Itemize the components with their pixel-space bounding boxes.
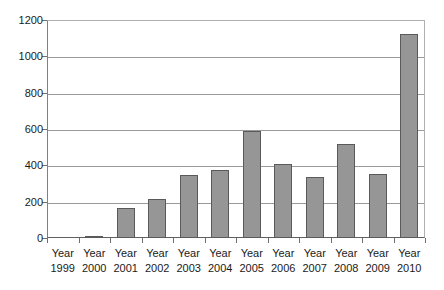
x-axis-label-line1: Year [110, 246, 142, 261]
bar[interactable] [369, 174, 387, 238]
bar[interactable] [117, 208, 135, 238]
bar-slot [394, 20, 426, 238]
y-axis-tick-label: 400 [2, 160, 43, 171]
x-axis-labels: Year1999Year2000Year2001Year2002Year2003… [47, 246, 425, 286]
x-axis-label-line1: Year [299, 246, 331, 261]
x-axis-tick-mark [142, 238, 143, 243]
x-axis-tick-mark [331, 238, 332, 243]
x-axis-tick-mark [173, 238, 174, 243]
bar-slot [142, 20, 174, 238]
x-axis-tick-mark [299, 238, 300, 243]
x-axis-tick-label: Year2006 [268, 246, 300, 276]
x-axis-tick-label: Year2001 [110, 246, 142, 276]
x-axis-label-line1: Year [79, 246, 111, 261]
bar[interactable] [306, 177, 324, 238]
bar-chart: 020040060080010001200 Year1999Year2000Ye… [0, 0, 444, 290]
bar-slot [110, 20, 142, 238]
x-axis-label-line2: 2009 [362, 261, 394, 276]
bar-slot [331, 20, 363, 238]
x-axis-tick-label: Year2008 [331, 246, 363, 276]
x-axis-label-line2: 1999 [47, 261, 79, 276]
bars-layer [47, 20, 425, 238]
x-axis-tick-mark [79, 238, 80, 243]
y-axis-tick-label: 1000 [2, 51, 43, 62]
bar[interactable] [180, 175, 198, 238]
bar-slot [205, 20, 237, 238]
x-axis-tick-mark [236, 238, 237, 243]
x-axis-tick-label: Year2002 [142, 246, 174, 276]
x-axis-tick-mark [47, 238, 48, 243]
bar-slot [47, 20, 79, 238]
bar-slot [79, 20, 111, 238]
bar-slot [268, 20, 300, 238]
x-axis-label-line1: Year [205, 246, 237, 261]
bar-slot [173, 20, 205, 238]
x-axis-label-line2: 2001 [110, 261, 142, 276]
x-axis-tick-label: Year1999 [47, 246, 79, 276]
bar[interactable] [400, 34, 418, 238]
x-axis-label-line2: 2010 [394, 261, 426, 276]
x-axis-tick-label: Year2004 [205, 246, 237, 276]
x-axis-tick-mark [394, 238, 395, 243]
x-axis-tick-label: Year2009 [362, 246, 394, 276]
x-axis-label-line2: 2004 [205, 261, 237, 276]
x-axis-ticks [47, 238, 425, 243]
y-axis-tick-label: 1200 [2, 15, 43, 26]
x-axis-tick-label: Year2010 [394, 246, 426, 276]
bar[interactable] [243, 131, 261, 238]
y-axis-tick-label: 0 [2, 233, 43, 244]
bar[interactable] [211, 170, 229, 238]
bar[interactable] [274, 164, 292, 238]
x-axis-tick-mark [268, 238, 269, 243]
x-axis-label-line1: Year [173, 246, 205, 261]
x-axis-label-line2: 2008 [331, 261, 363, 276]
x-axis-label-line1: Year [394, 246, 426, 261]
x-axis-tick-mark [425, 238, 426, 243]
y-axis-tick-label: 800 [2, 87, 43, 98]
x-axis-label-line1: Year [142, 246, 174, 261]
x-axis-tick-label: Year2007 [299, 246, 331, 276]
x-axis-tick-mark [110, 238, 111, 243]
bar-slot [236, 20, 268, 238]
y-axis-tick-label: 200 [2, 196, 43, 207]
x-axis-label-line2: 2006 [268, 261, 300, 276]
x-axis-label-line2: 2002 [142, 261, 174, 276]
y-axis-tick-label: 600 [2, 124, 43, 135]
x-axis-tick-label: Year2000 [79, 246, 111, 276]
x-axis-label-line2: 2007 [299, 261, 331, 276]
bar-slot [362, 20, 394, 238]
x-axis-tick-mark [362, 238, 363, 243]
bar-slot [299, 20, 331, 238]
y-axis: 020040060080010001200 [0, 0, 43, 290]
bar[interactable] [337, 144, 355, 238]
x-axis-label-line1: Year [331, 246, 363, 261]
x-axis-tick-mark [205, 238, 206, 243]
x-axis-label-line2: 2000 [79, 261, 111, 276]
x-axis-label-line2: 2003 [173, 261, 205, 276]
x-axis-tick-label: Year2003 [173, 246, 205, 276]
x-axis-label-line1: Year [47, 246, 79, 261]
x-axis-label-line1: Year [236, 246, 268, 261]
x-axis-label-line2: 2005 [236, 261, 268, 276]
x-axis-label-line1: Year [268, 246, 300, 261]
x-axis-label-line1: Year [362, 246, 394, 261]
bar[interactable] [148, 199, 166, 238]
x-axis-tick-label: Year2005 [236, 246, 268, 276]
